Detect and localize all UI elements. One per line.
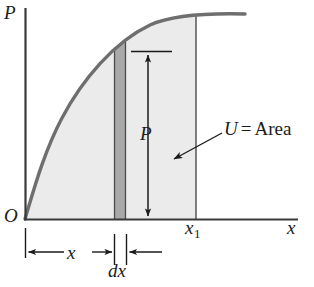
x-axis-label: x bbox=[287, 218, 295, 237]
y-axis-label: P bbox=[4, 3, 16, 22]
area-equals-sign: = bbox=[241, 118, 252, 139]
origin-label: O bbox=[4, 206, 18, 225]
area-word: Area bbox=[254, 118, 291, 139]
area-annotation: U=Area bbox=[224, 119, 291, 138]
force-deflection-area-figure: P O x P x dx x1 U=Area bbox=[0, 0, 314, 287]
upper-limit-label: x1 bbox=[185, 218, 200, 240]
figure-graphics bbox=[0, 0, 314, 287]
dx-dimension-label: dx bbox=[108, 261, 126, 280]
area-under-curve bbox=[25, 14, 196, 219]
force-ordinate-label: P bbox=[140, 124, 152, 143]
x-dimension-label: x bbox=[67, 243, 75, 262]
dx-strip bbox=[115, 42, 126, 219]
upper-limit-subscript: 1 bbox=[194, 226, 201, 241]
area-symbol: U bbox=[224, 118, 238, 139]
upper-limit-symbol: x bbox=[185, 217, 193, 238]
